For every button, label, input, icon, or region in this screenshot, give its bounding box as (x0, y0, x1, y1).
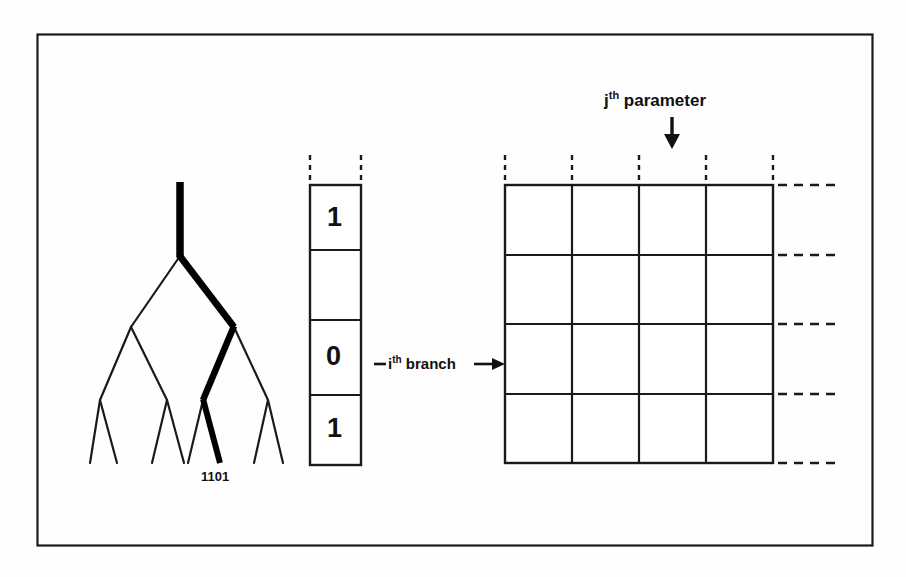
ith-branch-arrow-head (492, 358, 505, 370)
tree-leaf-3-right-bold (203, 399, 220, 463)
tree-branch-0-right-bold (179, 255, 234, 327)
grid-top-dashed-ticks (505, 155, 773, 184)
tree-leaf-3-left (188, 400, 203, 463)
jth-parameter-label-superscript: th (609, 89, 619, 101)
vector-cell-value-2: 0 (326, 343, 341, 370)
tree-leaf-1-left (90, 400, 100, 463)
tree-leaf-code-label: 1101 (201, 470, 229, 483)
tree-branch-1L-right (131, 327, 167, 400)
tree-diagram (90, 182, 283, 463)
tree-leaf-1-right (100, 400, 117, 463)
figure-diagram (0, 0, 906, 577)
tree-thin-branches (90, 256, 283, 463)
tree-leaf-2-right (167, 400, 184, 463)
tree-highlighted-path (179, 182, 234, 463)
tree-branch-1L-left (100, 327, 131, 400)
jth-parameter-arrow-head (664, 134, 680, 149)
jth-parameter-arrow (664, 117, 680, 149)
ith-branch-label-superscript: th (392, 354, 401, 365)
ith-branch-label-suffix: branch (402, 355, 456, 372)
jth-parameter-label-suffix: parameter (619, 91, 706, 110)
tree-branch-0-left (131, 256, 180, 327)
tree-branch-1R-right (234, 327, 268, 400)
tree-leaf-2-left (152, 400, 167, 463)
vector-cell-value-3: 1 (327, 415, 342, 442)
ith-branch-label: ith branch (388, 355, 456, 371)
vector-cell-value-0: 1 (327, 204, 342, 231)
tree-leaf-4-right (268, 400, 283, 463)
parameter-grid (505, 155, 838, 463)
tree-branch-1R-left-bold (203, 326, 234, 400)
jth-parameter-label: jth parameter (604, 90, 706, 109)
grid-right-dashed-extensions (778, 185, 838, 463)
tree-leaf-4-left (254, 400, 268, 463)
figure-container: 1 0 1 1101 ith branch jth parameter (0, 0, 906, 577)
